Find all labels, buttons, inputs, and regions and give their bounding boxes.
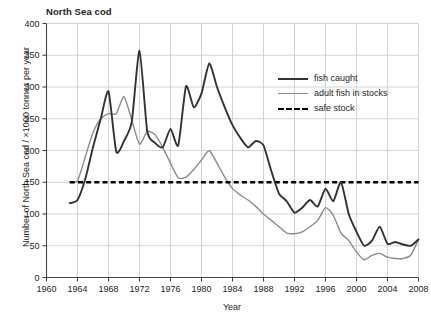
x-tick-label-1980: 1980	[185, 284, 219, 294]
legend-item-safe-stock: safe stock	[278, 100, 388, 115]
chart-legend: fish caught adult fish in stocks safe st…	[278, 70, 388, 115]
y-tick-label-100: 100	[10, 209, 40, 219]
y-tick-label-50: 50	[10, 241, 40, 251]
y-tick-label-400: 400	[10, 19, 40, 29]
y-tick-label-250: 250	[10, 114, 40, 124]
x-tick-label-1984: 1984	[216, 284, 250, 294]
chart-title: North Sea cod	[46, 6, 112, 17]
legend-line-icon-adult-fish-in-stocks	[278, 88, 308, 98]
legend-item-fish-caught: fish caught	[278, 70, 388, 85]
x-tick-label-1988: 1988	[247, 284, 281, 294]
legend-label-adult-fish-in-stocks: adult fish in stocks	[314, 88, 388, 98]
legend-line-icon-safe-stock	[278, 103, 308, 113]
legend-label-fish-caught: fish caught	[314, 73, 358, 83]
y-tick-label-150: 150	[10, 177, 40, 187]
chart-container: North Sea cod Number of North Sea cod / …	[0, 0, 431, 324]
x-tick-label-1972: 1972	[123, 284, 157, 294]
x-tick-label-1960: 1960	[30, 284, 64, 294]
x-tick-label-2004: 2004	[371, 284, 405, 294]
y-tick-label-200: 200	[10, 146, 40, 156]
x-tick-label-2000: 2000	[340, 284, 374, 294]
y-tick-label-350: 350	[10, 50, 40, 60]
x-tick-label-1996: 1996	[309, 284, 343, 294]
x-axis-title: Year	[46, 302, 418, 312]
y-tick-label-0: 0	[10, 273, 40, 283]
x-tick-label-1964: 1964	[61, 284, 95, 294]
x-tick-label-1976: 1976	[154, 284, 188, 294]
x-tick-label-2008: 2008	[402, 284, 431, 294]
y-tick-label-300: 300	[10, 82, 40, 92]
legend-item-adult-fish-in-stocks: adult fish in stocks	[278, 85, 388, 100]
legend-label-safe-stock: safe stock	[314, 103, 355, 113]
series-line-adult-fish-in-stocks	[70, 97, 419, 260]
legend-line-icon-fish-caught	[278, 73, 308, 83]
x-tick-label-1968: 1968	[92, 284, 126, 294]
x-tick-label-1992: 1992	[278, 284, 312, 294]
plot-area	[0, 0, 431, 324]
